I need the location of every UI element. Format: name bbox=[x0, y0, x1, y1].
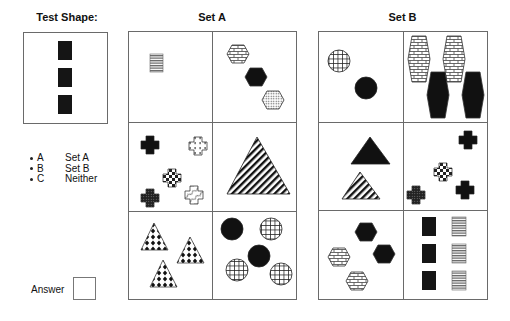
puzzle-shapes bbox=[0, 0, 510, 321]
set-b-cell-3-triangles bbox=[342, 137, 390, 199]
set-b-cell-4-crosses bbox=[407, 131, 477, 204]
set-b-cell-1-circles bbox=[328, 50, 377, 99]
set-b-cell-5-hexagons bbox=[328, 223, 395, 290]
set-a-cell-1-rect bbox=[150, 54, 163, 72]
set-b-cell-2-hexagons bbox=[408, 36, 484, 118]
set-a-cell-2-hexagons bbox=[227, 45, 284, 109]
set-a-cell-5-triangles bbox=[141, 223, 204, 287]
set-a-cell-4-triangle bbox=[227, 137, 290, 194]
set-b-cell-6-rects bbox=[422, 217, 466, 290]
test-shape-rects bbox=[58, 41, 72, 114]
set-a-cell-6-circles bbox=[221, 218, 292, 285]
set-a-cell-3-crosses bbox=[141, 136, 207, 207]
